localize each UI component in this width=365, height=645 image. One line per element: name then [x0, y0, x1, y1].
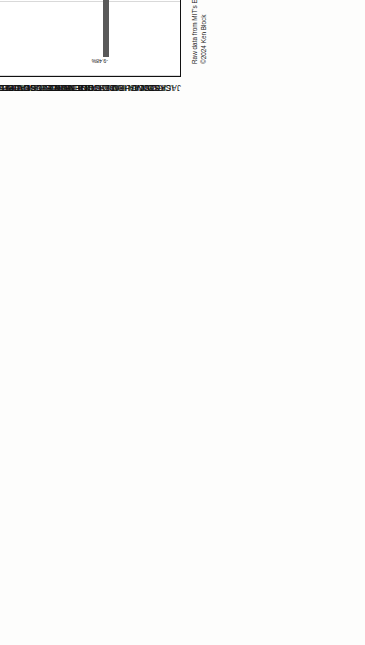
category-label: JACKSON [174, 83, 181, 92]
plot-area: -1.52%-1.01%-3.17%-0.69%-6.45%2.23%-2.23… [0, 0, 181, 77]
gridline [0, 1, 180, 2]
chart-canvas: Margin -10.00%-8.00%-6.00%-4.00%-2.00%0.… [0, 0, 225, 140]
bar [103, 0, 108, 57]
bar-value-label: -9.48% [103, 58, 108, 64]
credit-source: Raw data from MIT's Election Data and Sc… [190, 0, 199, 64]
chart-subtitle: Trump's change in the percentage of the … [201, 0, 213, 77]
category-axis: ALCONAALGERALLEGANALPENAANTRIMARENACBARA… [0, 80, 181, 140]
chart-stage: Margin -10.00%-8.00%-6.00%-4.00%-2.00%0.… [0, 0, 225, 140]
gridline [0, 75, 180, 76]
